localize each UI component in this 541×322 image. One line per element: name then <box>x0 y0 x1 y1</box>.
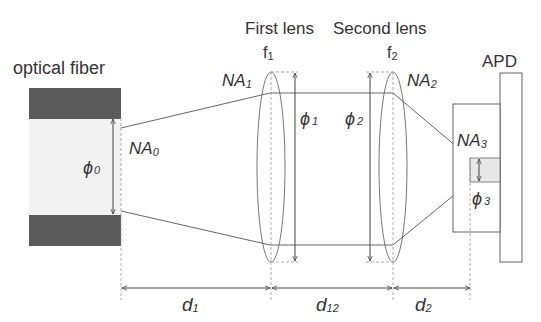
second-lens <box>366 72 407 300</box>
apd <box>453 73 522 300</box>
apd-detector-area <box>470 158 500 182</box>
phi1-label: ϕ1 <box>300 109 318 129</box>
na0-label: NA0 <box>129 139 160 158</box>
fiber-cladding-bottom <box>29 215 121 246</box>
na1-label: NA1 <box>222 71 252 90</box>
fiber-core <box>29 118 121 215</box>
second-lens-label: Second lens <box>333 19 427 38</box>
d1-label: d1 <box>182 294 199 315</box>
phi2-label: ϕ2 <box>345 109 363 129</box>
apd-label: APD <box>482 52 517 71</box>
d2-label: d2 <box>415 294 432 315</box>
f2-label: f2 <box>387 44 398 62</box>
optical-fiber-label: optical fiber <box>13 58 105 78</box>
f1-label: f1 <box>263 44 274 62</box>
first-lens <box>257 72 298 300</box>
first-lens-label: First lens <box>245 19 314 38</box>
na2-label: NA2 <box>407 71 437 90</box>
apd-package <box>500 73 522 262</box>
optical-coupling-diagram: optical fiber First lens Second lens APD… <box>0 0 541 322</box>
fiber-cladding-top <box>29 88 121 119</box>
optical-fiber <box>29 88 121 300</box>
d12-label: d12 <box>316 294 339 315</box>
